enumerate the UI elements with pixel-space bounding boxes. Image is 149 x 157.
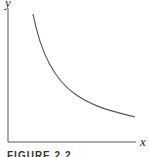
y-axis-label: y [3,0,11,10]
curve-series [33,14,135,117]
chart: y x [0,0,149,157]
x-axis-label: x [139,134,146,149]
figure-caption: FIGURE 2.2 [7,150,71,157]
